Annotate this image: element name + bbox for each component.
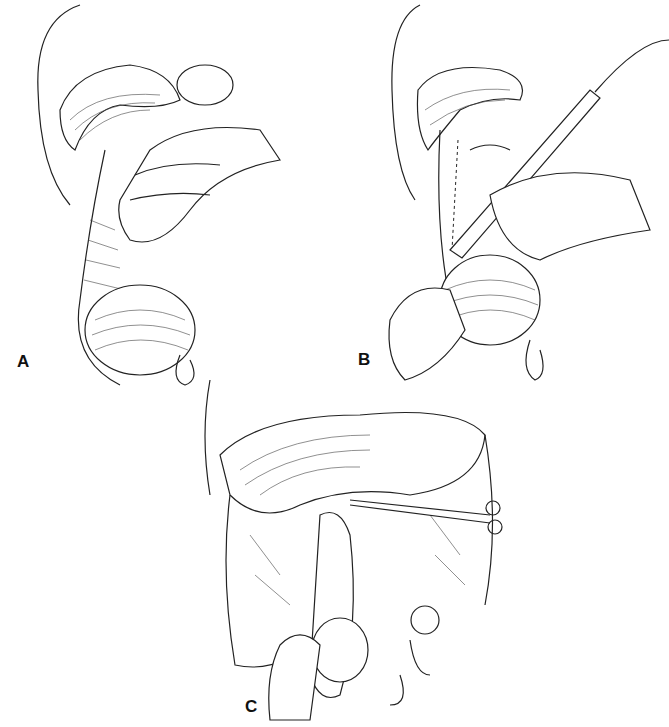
illustration-c [200,375,540,727]
illustration-a [20,0,300,390]
panel-label-c: C [245,697,257,717]
panel-b [380,0,669,390]
panel-label-b: B [358,350,370,370]
panel-a [20,0,300,390]
panel-label-a: A [17,352,29,372]
panel-c [200,375,540,727]
illustration-b [380,0,669,390]
